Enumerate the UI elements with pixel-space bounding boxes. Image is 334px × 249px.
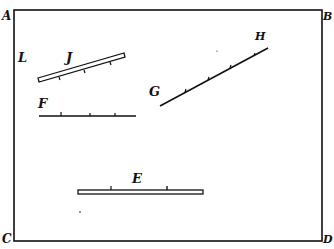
corner-label-c: C xyxy=(2,232,12,246)
stray-dot xyxy=(79,211,81,213)
corner-label-b: B xyxy=(322,10,332,23)
diagram-canvas: A B C D L J F G H E xyxy=(0,0,334,249)
line-gh xyxy=(160,48,268,106)
corner-label-d: D xyxy=(322,233,333,246)
rod-e xyxy=(78,186,203,194)
label-h: H xyxy=(254,30,266,43)
label-e: E xyxy=(131,171,143,186)
frame-rectangle xyxy=(14,10,322,241)
line-f xyxy=(39,112,136,116)
stray-dot xyxy=(216,50,217,51)
label-f: F xyxy=(37,96,48,111)
rod-j xyxy=(38,53,125,82)
label-l: L xyxy=(17,50,27,65)
corner-label-a: A xyxy=(1,9,11,23)
label-g: G xyxy=(149,84,160,99)
label-j: J xyxy=(63,50,73,65)
